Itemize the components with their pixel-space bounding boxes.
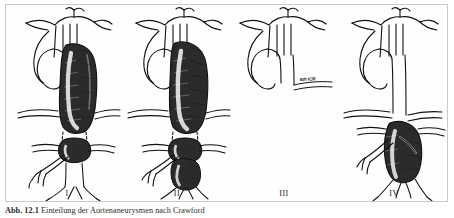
- crawford-type-3-illustration: [224, 5, 344, 201]
- crawford-type-2-panel: II: [118, 5, 236, 201]
- crawford-type-2-illustration: [118, 5, 236, 201]
- crawford-type-4-numeral: IV: [338, 189, 448, 198]
- type-1-visceral-segment: [58, 138, 90, 163]
- type-1-aneurysm-sac: [59, 44, 96, 134]
- crawford-type-4-illustration: [338, 5, 448, 201]
- sixth-icr-reference-line: [294, 82, 332, 90]
- figure-caption-text: Einteilung der Aortenaneurysmen nach Cra…: [41, 206, 205, 215]
- figure-frame: I: [5, 4, 448, 202]
- sixth-icr-label: 6th ICR: [300, 76, 316, 82]
- crawford-type-4-panel: IV: [338, 5, 448, 201]
- crawford-type-1-illustration: [8, 5, 126, 201]
- crawford-type-1-numeral: I: [8, 189, 126, 198]
- crawford-type-2-numeral: II: [118, 189, 236, 198]
- crawford-type-1-panel: I: [8, 5, 126, 201]
- crawford-type-3-panel: 6th ICR III: [224, 5, 344, 201]
- page-top-bleed-text: [0, 0, 454, 3]
- type-2-infrarenal-sac: [171, 159, 201, 190]
- figure-page: I: [0, 0, 454, 218]
- figure-caption-number: Abb. 12.1: [5, 206, 39, 215]
- crawford-type-3-numeral: III: [224, 189, 344, 198]
- figure-caption: Abb. 12.1 Einteilung der Aortenaneurysme…: [5, 205, 454, 218]
- panel-row: I: [6, 5, 447, 201]
- type-2-thoracic-sac: [169, 42, 207, 134]
